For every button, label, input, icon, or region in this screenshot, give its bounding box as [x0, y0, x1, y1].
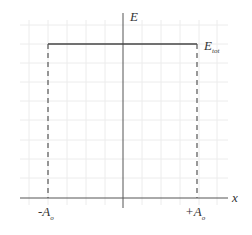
energy-level-label-main: E: [203, 38, 212, 53]
left-tick-label-sub: o: [50, 214, 54, 222]
energy-level-label: Etot: [203, 38, 220, 55]
y-axis-label: E: [129, 9, 138, 24]
left-tick-label-main: -A: [38, 204, 50, 219]
left-tick-label: -Ao: [38, 204, 54, 222]
energy-level-label-sub: tot: [212, 47, 220, 55]
right-tick-label-main: +A: [185, 204, 202, 219]
x-axis-label: x: [231, 190, 238, 205]
right-tick-label-sub: o: [202, 214, 206, 222]
energy-diagram: E x Etot -Ao +Ao: [0, 0, 252, 235]
right-tick-label: +Ao: [185, 204, 206, 222]
